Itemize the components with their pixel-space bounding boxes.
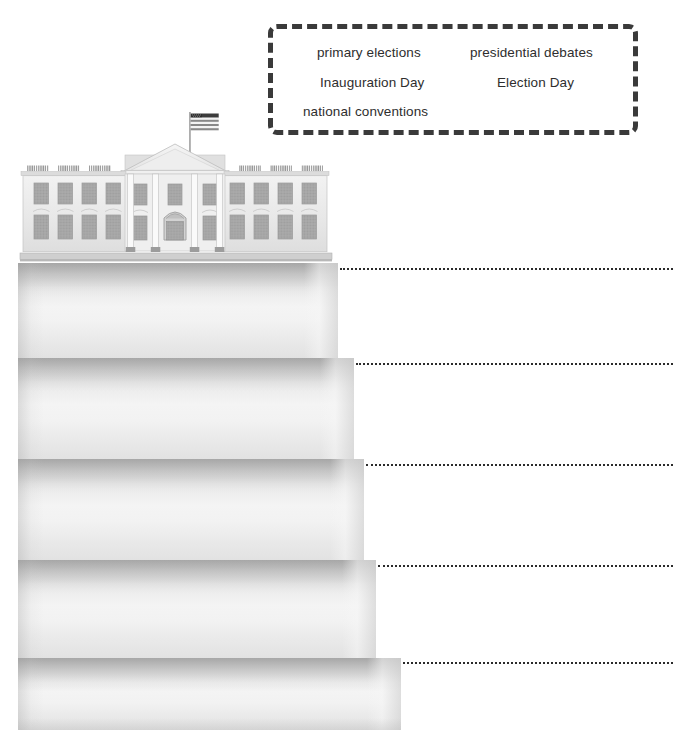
center-block: [125, 174, 225, 252]
staircase-step-1: [18, 263, 338, 358]
answer-line-3[interactable]: [366, 464, 673, 466]
roof-balustrade: [301, 166, 323, 172]
window: [168, 184, 182, 205]
step-bottom-shade: [18, 718, 401, 730]
answer-line-4[interactable]: [378, 565, 673, 567]
roof-balustrade: [89, 166, 111, 172]
step-edge-right: [320, 358, 354, 459]
step-riser-shade: [18, 358, 354, 392]
answer-line-5[interactable]: [403, 662, 673, 664]
staircase-step-3: [18, 459, 364, 560]
step-riser-shade: [18, 263, 338, 297]
word-bank-row: primary elections presidential debates: [273, 45, 633, 71]
window: [133, 184, 147, 205]
step-edge-left: [18, 358, 44, 459]
foundation-shadow: [20, 259, 332, 261]
left-wing: [21, 166, 126, 252]
step-edge-left: [18, 459, 44, 560]
main-entrance: [164, 212, 186, 240]
step-edge-right: [342, 560, 376, 658]
right-wing: [224, 166, 329, 252]
word-bank-row: Inauguration Day Election Day: [273, 75, 633, 101]
foundation-band: [20, 253, 332, 260]
staircase-step-4: [18, 560, 376, 658]
word-bank-term-election-day[interactable]: Election Day: [497, 75, 574, 90]
white-house-illustration: [16, 108, 336, 268]
answer-line-1[interactable]: [340, 268, 673, 270]
roof-balustrade: [239, 166, 261, 172]
step-riser-shade: [18, 459, 364, 493]
american-flag-icon: [189, 112, 219, 158]
step-edge-left: [18, 263, 44, 358]
window: [203, 184, 217, 205]
worksheet-canvas: primary elections presidential debates I…: [0, 0, 689, 740]
staircase-step-2: [18, 358, 354, 459]
word-bank-term-primary-elections[interactable]: primary elections: [317, 45, 421, 60]
staircase-step-5: [18, 658, 401, 730]
answer-line-2[interactable]: [356, 363, 673, 365]
step-edge-right: [330, 459, 364, 560]
window: [133, 216, 147, 240]
white-house-svg: [16, 108, 336, 268]
cornice: [224, 172, 329, 176]
step-edge-right: [304, 263, 338, 358]
window: [203, 216, 217, 240]
portico-entablature: [121, 171, 229, 175]
roof-balustrade: [58, 166, 80, 172]
roof-balustrade: [270, 166, 292, 172]
step-edge-left: [18, 560, 44, 658]
word-bank-term-inauguration-day[interactable]: Inauguration Day: [320, 75, 424, 90]
step-riser-shade: [18, 658, 401, 692]
step-riser-shade: [18, 560, 376, 594]
staircase: [0, 255, 430, 740]
cornice: [21, 172, 126, 176]
roof-balustrade: [27, 166, 49, 172]
word-bank-term-presidential-debates[interactable]: presidential debates: [470, 45, 593, 60]
